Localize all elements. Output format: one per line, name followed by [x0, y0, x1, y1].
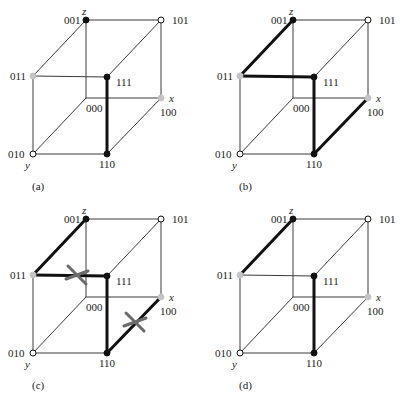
axis-label-x: x — [168, 92, 174, 104]
vertex-111 — [104, 273, 110, 279]
axis-label-y: y — [24, 159, 30, 171]
vertex-010 — [237, 151, 243, 157]
vertex-label-100: 100 — [160, 106, 177, 118]
vertex-011 — [237, 73, 243, 79]
bold-edge-011-111 — [240, 76, 314, 77]
vertex-label-011: 011 — [217, 70, 233, 82]
vertex-label-101: 101 — [379, 14, 396, 26]
panel-caption: (b) — [239, 180, 252, 193]
vertex-label-101: 101 — [379, 213, 396, 225]
vertex-label-010: 010 — [8, 347, 25, 359]
edge-101-111 — [107, 20, 161, 77]
panel-c: 100101110111001011000010zxy(c) — [8, 204, 189, 392]
vertex-label-000: 000 — [293, 102, 310, 114]
panel-caption: (a) — [32, 180, 45, 193]
vertex-label-110: 110 — [99, 357, 116, 369]
vertex-label-010: 010 — [8, 148, 25, 160]
edge-000-010 — [240, 297, 293, 353]
vertex-010 — [237, 350, 243, 356]
vertex-label-001: 001 — [64, 213, 81, 225]
vertex-101 — [365, 17, 371, 23]
vertex-label-011: 011 — [10, 269, 26, 281]
vertex-110 — [311, 350, 317, 356]
edge-100-110 — [107, 98, 161, 154]
hypercube-figure: 100101110111001011000010zxy(a) 100101110… — [0, 0, 402, 403]
vertex-100 — [158, 95, 164, 101]
vertex-label-001: 001 — [271, 14, 288, 26]
edge-001-011 — [33, 20, 86, 76]
axis-label-x: x — [375, 92, 381, 104]
vertex-001 — [83, 216, 89, 222]
vertex-label-111: 111 — [116, 76, 132, 88]
vertex-100 — [365, 95, 371, 101]
edge-101-111 — [314, 20, 368, 77]
vertex-label-111: 111 — [323, 275, 339, 287]
bold-edge-001-011 — [240, 20, 293, 76]
vertex-100 — [158, 294, 164, 300]
vertex-111 — [104, 74, 110, 80]
vertex-101 — [158, 216, 164, 222]
vertex-label-011: 011 — [217, 269, 233, 281]
vertex-label-100: 100 — [367, 305, 384, 317]
edge-000-010 — [240, 98, 293, 154]
edge-101-111 — [314, 219, 368, 276]
vertex-label-000: 000 — [86, 102, 103, 114]
vertex-label-010: 010 — [215, 148, 232, 160]
bold-edge-011-111 — [33, 275, 107, 276]
vertex-label-101: 101 — [172, 213, 189, 225]
axis-label-y: y — [24, 358, 30, 370]
vertex-label-101: 101 — [172, 14, 189, 26]
panel-b: 100101110111001011000010zxy(b) — [215, 5, 396, 193]
vertex-label-011: 011 — [10, 70, 26, 82]
vertex-101 — [365, 216, 371, 222]
vertex-label-000: 000 — [86, 301, 103, 313]
bold-edge-001-011 — [240, 219, 293, 275]
bold-edge-110-100 — [107, 297, 161, 353]
vertex-011 — [237, 272, 243, 278]
edge-100-110 — [314, 297, 368, 353]
vertex-010 — [30, 151, 36, 157]
vertex-label-100: 100 — [367, 106, 384, 118]
vertex-label-110: 110 — [99, 158, 116, 170]
vertex-110 — [104, 151, 110, 157]
vertex-110 — [104, 350, 110, 356]
vertex-label-110: 110 — [306, 357, 323, 369]
vertex-001 — [83, 17, 89, 23]
vertex-label-010: 010 — [215, 347, 232, 359]
vertex-011 — [30, 272, 36, 278]
edge-000-010 — [33, 98, 86, 154]
edge-011-111 — [240, 275, 314, 276]
vertex-label-111: 111 — [323, 76, 339, 88]
vertex-111 — [311, 273, 317, 279]
axis-label-x: x — [375, 291, 381, 303]
edge-000-010 — [33, 297, 86, 353]
bold-edge-110-100 — [314, 98, 368, 154]
edge-101-111 — [107, 219, 161, 276]
bold-edge-001-011 — [33, 219, 86, 275]
axis-label-z: z — [81, 5, 87, 17]
vertex-011 — [30, 73, 36, 79]
axis-label-y: y — [231, 358, 237, 370]
vertex-label-110: 110 — [306, 158, 323, 170]
vertex-label-001: 001 — [271, 213, 288, 225]
vertex-001 — [290, 17, 296, 23]
vertex-111 — [311, 74, 317, 80]
panel-caption: (d) — [239, 379, 252, 392]
vertex-100 — [365, 294, 371, 300]
panel-d: 100101110111001011000010zxy(d) — [215, 204, 396, 392]
vertex-101 — [158, 17, 164, 23]
panel-caption: (c) — [32, 379, 45, 392]
axis-label-x: x — [168, 291, 174, 303]
vertex-010 — [30, 350, 36, 356]
vertex-label-100: 100 — [160, 305, 177, 317]
axis-label-y: y — [231, 159, 237, 171]
vertex-label-111: 111 — [116, 275, 132, 287]
axis-label-z: z — [288, 5, 294, 17]
vertex-110 — [311, 151, 317, 157]
axis-label-z: z — [288, 204, 294, 216]
vertex-001 — [290, 216, 296, 222]
edge-011-111 — [33, 76, 107, 77]
vertex-label-001: 001 — [64, 14, 81, 26]
panel-a: 100101110111001011000010zxy(a) — [8, 5, 189, 193]
vertex-label-000: 000 — [293, 301, 310, 313]
